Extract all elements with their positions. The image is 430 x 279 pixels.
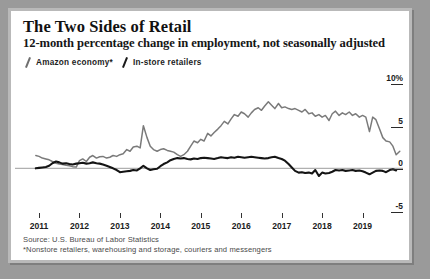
x-tick-mark — [282, 213, 283, 218]
x-tick-mark — [322, 213, 323, 218]
chart-plot-area — [11, 69, 409, 219]
chart-subtitle: 12-month percentage change in employment… — [23, 36, 385, 51]
x-tick-label: 2012 — [70, 221, 89, 231]
slash-icon — [120, 57, 129, 68]
x-tick-label: 2018 — [313, 221, 332, 231]
page-title: The Two Sides of Retail — [23, 17, 192, 37]
series-line-in-store-retailers — [36, 157, 396, 176]
x-tick-mark — [241, 213, 242, 218]
chart-card: The Two Sides of Retail 12-month percent… — [8, 8, 412, 263]
x-tick-mark — [201, 213, 202, 218]
x-tick-label: 2011 — [30, 221, 49, 231]
x-tick-mark — [79, 213, 80, 218]
y-tick-label: 5 — [391, 116, 403, 128]
footnote: *Nonstore retailers, warehousing and sto… — [23, 245, 272, 254]
x-tick-mark — [120, 213, 121, 218]
x-tick-label: 2014 — [151, 221, 170, 231]
x-tick-label: 2013 — [110, 221, 129, 231]
chart-legend: Amazon economy* In-store retailers — [23, 57, 202, 68]
legend-label-amazon: Amazon economy* — [36, 58, 113, 67]
legend-item-amazon: Amazon economy* — [23, 57, 113, 68]
x-tick-label: 2019 — [353, 221, 372, 231]
x-tick-mark — [39, 213, 40, 218]
legend-item-instore: In-store retailers — [120, 57, 202, 68]
slash-icon — [23, 57, 32, 68]
legend-label-instore: In-store retailers — [133, 58, 202, 67]
source-note: Source: U.S. Bureau of Labor Statistics — [23, 235, 159, 244]
x-tick-mark — [363, 213, 364, 218]
x-tick-label: 2016 — [232, 221, 251, 231]
line-chart-svg — [11, 69, 409, 219]
y-tick-label: 10% — [386, 73, 403, 85]
y-tick-label: 0 — [391, 158, 403, 170]
y-tick-label: -5 — [391, 201, 403, 213]
x-tick-mark — [160, 213, 161, 218]
chart-card-inner: The Two Sides of Retail 12-month percent… — [11, 11, 409, 260]
x-tick-label: 2017 — [272, 221, 291, 231]
x-tick-label: 2015 — [191, 221, 210, 231]
